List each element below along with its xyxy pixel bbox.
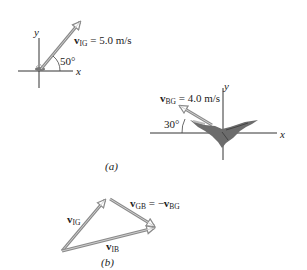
angle-label-50: 50° <box>60 56 75 67</box>
vector-gb-b-label: vGB = −vBG <box>130 198 180 211</box>
vector-diagram-canvas <box>0 0 307 270</box>
caption-b: (b) <box>101 257 114 268</box>
x-axis-label-bg: x <box>280 129 285 140</box>
caption-a: (a) <box>105 161 118 172</box>
vector-ib-b-label: vIB <box>106 241 119 254</box>
vector-ig-label: vIG = 5.0 m/s <box>74 35 132 48</box>
angle-label-30: 30° <box>164 119 179 130</box>
y-axis-label-bg: y <box>224 81 229 92</box>
vector-bg-label: vBG = 4.0 m/s <box>160 93 220 106</box>
y-axis-label-ig: y <box>34 27 39 38</box>
angle-arc-30 <box>182 119 185 133</box>
bat-icon <box>190 120 258 148</box>
angle-arc-50 <box>53 56 60 71</box>
x-axis-label-ig: x <box>76 66 81 77</box>
vector-ig-b-label: vIG <box>67 214 80 227</box>
